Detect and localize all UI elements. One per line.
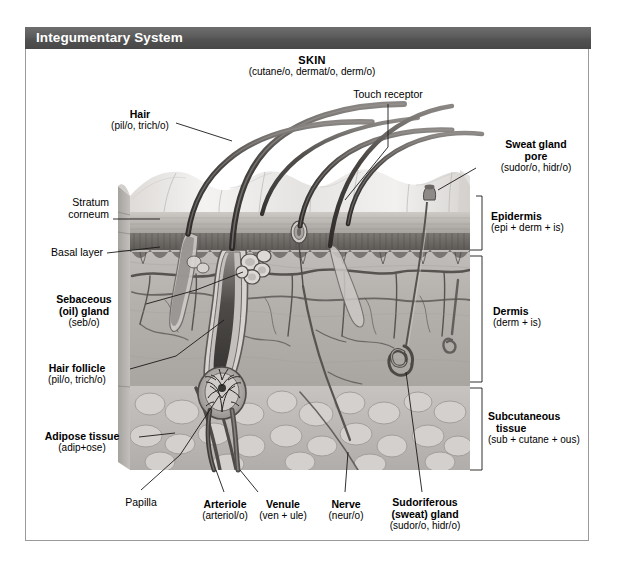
label-venule: Venule (ven + ule) <box>245 498 321 522</box>
label-sudoriferous-gland-term2: (sweat) gland <box>366 508 484 520</box>
label-epidermis: Epidermis (epi + derm + is) <box>491 210 611 234</box>
label-sudoriferous-gland-term: Sudoriferous <box>366 496 484 508</box>
label-sweat-gland-pore-term: Sweat gland <box>476 138 596 150</box>
label-skin-roots: (cutane/o, dermat/o, derm/o) <box>222 66 402 78</box>
label-venule-roots: (ven + ule) <box>245 510 321 522</box>
label-subcutaneous-tissue-term2: tissue <box>488 422 613 434</box>
label-sebaceous-gland-term: Sebaceous <box>24 293 144 305</box>
label-stratum-corneum-term2: corneum <box>23 208 109 220</box>
label-sebaceous-gland-roots: (seb/o) <box>24 317 144 329</box>
label-sudoriferous-gland: Sudoriferous (sweat) gland (sudor/o, hid… <box>366 496 484 533</box>
label-subcutaneous-tissue-roots: (sub + cutane + ous) <box>488 434 613 446</box>
label-hair: Hair (pil/o, trich/o) <box>96 108 184 132</box>
label-touch-receptor-term: Touch receptor <box>333 88 443 100</box>
label-stratum-corneum: Stratum corneum <box>23 196 109 220</box>
label-hair-follicle-roots: (pil/o, trich/o) <box>22 374 132 386</box>
label-sweat-gland-pore-term2: pore <box>476 150 596 162</box>
label-sweat-gland-pore-roots: (sudor/o, hidr/o) <box>476 162 596 174</box>
label-basal-layer-term: Basal layer <box>23 246 103 258</box>
label-subcutaneous-tissue-term: Subcutaneous <box>488 410 613 422</box>
label-hair-follicle: Hair follicle (pil/o, trich/o) <box>22 362 132 386</box>
label-sweat-gland-pore: Sweat gland pore (sudor/o, hidr/o) <box>476 138 596 175</box>
label-stratum-corneum-term: Stratum <box>23 196 109 208</box>
label-venule-term: Venule <box>245 498 321 510</box>
label-sebaceous-gland: Sebaceous (oil) gland (seb/o) <box>24 293 144 330</box>
label-dermis-term: Dermis <box>493 305 613 317</box>
label-papilla: Papilla <box>106 496 176 508</box>
label-sudoriferous-gland-roots: (sudor/o, hidr/o) <box>366 520 484 532</box>
label-hair-follicle-term: Hair follicle <box>22 362 132 374</box>
label-dermis: Dermis (derm + is) <box>493 305 613 329</box>
label-basal-layer: Basal layer <box>23 246 103 258</box>
label-hair-roots: (pil/o, trich/o) <box>96 120 184 132</box>
label-skin-term: SKIN <box>222 54 402 66</box>
page-root: Integumentary System <box>0 0 617 566</box>
label-hair-term: Hair <box>96 108 184 120</box>
label-sebaceous-gland-term2: (oil) gland <box>24 305 144 317</box>
label-epidermis-term: Epidermis <box>491 210 611 222</box>
label-papilla-term: Papilla <box>106 496 176 508</box>
label-adipose-tissue-term: Adipose tissue <box>23 430 141 442</box>
label-touch-receptor: Touch receptor <box>333 88 443 100</box>
label-skin: SKIN (cutane/o, dermat/o, derm/o) <box>222 54 402 78</box>
label-epidermis-roots: (epi + derm + is) <box>491 222 611 234</box>
layer-brackets <box>0 0 617 566</box>
label-subcutaneous-tissue: Subcutaneous tissue (sub + cutane + ous) <box>488 410 613 447</box>
label-adipose-tissue-roots: (adip+ose) <box>23 442 141 454</box>
label-dermis-roots: (derm + is) <box>493 317 613 329</box>
label-adipose-tissue: Adipose tissue (adip+ose) <box>23 430 141 454</box>
